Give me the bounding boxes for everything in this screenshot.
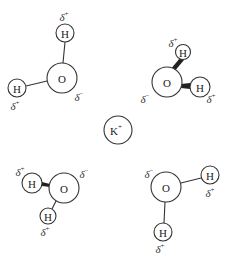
hydrogen-label: H (159, 227, 167, 239)
hydrogen-label: H (179, 47, 187, 59)
partial-positive-label: δ+ (15, 165, 24, 178)
partial-positive-label: δ+ (168, 36, 177, 49)
water-molecule-bottom-left: O H H δ+ δ+ δ− (15, 165, 88, 238)
hydrogen-label: H (28, 178, 36, 190)
oh-bond (164, 202, 165, 223)
potassium-ion: K+ (104, 116, 132, 144)
partial-positive-label: δ+ (59, 10, 68, 23)
partial-negative-label: δ− (79, 167, 88, 180)
partial-positive-label: δ+ (155, 242, 164, 255)
oxygen-label: O (163, 77, 171, 89)
hydration-diagram: K+ O H H δ+ δ+ δ− O H H δ+ δ+ δ− O H (0, 0, 228, 262)
hydrogen-label: H (206, 170, 214, 182)
partial-positive-label: δ+ (206, 92, 215, 105)
hydrogen-label: H (44, 211, 52, 223)
partial-positive-label: δ+ (205, 186, 214, 199)
oh-bond (52, 201, 56, 209)
water-molecule-top-right: O H H δ+ δ+ δ− (140, 36, 215, 105)
oh-bond (181, 178, 201, 183)
partial-positive-label: δ+ (40, 225, 49, 238)
partial-negative-label: δ− (144, 167, 153, 180)
partial-negative-label: δ− (74, 90, 83, 103)
partial-negative-label: δ− (140, 92, 149, 105)
water-molecule-bottom-right: O H H δ− δ+ δ+ (144, 166, 219, 255)
oxygen-label: O (58, 73, 66, 85)
oh-bond (63, 42, 65, 63)
partial-positive-label: δ+ (10, 99, 19, 112)
hydrogen-label: H (13, 83, 21, 95)
oxygen-label: O (162, 182, 170, 194)
oh-bond (26, 81, 47, 86)
hydrogen-label: H (196, 82, 204, 94)
oxygen-label: O (60, 183, 68, 195)
hydrogen-label: H (61, 28, 69, 40)
water-molecule-top-left: O H H δ+ δ+ δ− (8, 10, 84, 112)
